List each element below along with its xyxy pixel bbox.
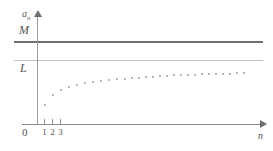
sequence-point [236,72,238,74]
y-axis-arrowhead-icon [34,10,42,17]
x-axis-tick-label-3: 3 [57,127,65,137]
sequence-convergence-figure: an M L 0 n 123 [0,0,273,151]
y-axis-label: an [22,9,31,22]
sequence-point [215,73,217,75]
sequence-point [159,75,161,77]
sequence-point [131,77,133,79]
y-axis-label-subscript: n [27,14,31,22]
upper-bound-line-m [14,41,263,43]
sequence-point [108,79,110,81]
sequence-point [222,73,224,75]
sequence-point [92,81,94,83]
sequence-point [124,78,126,80]
x-axis-tick-label-1: 1 [41,127,49,137]
sequence-point [173,74,175,76]
x-axis-label: n [258,131,263,141]
sequence-point [84,82,86,84]
sequence-point [138,77,140,79]
x-axis-tick-1 [44,119,45,125]
sequence-point [116,78,118,80]
sequence-point [208,73,210,75]
sequence-point [166,75,168,77]
sequence-point [68,86,70,88]
sequence-point [187,74,189,76]
x-axis-line [22,124,262,125]
sequence-point [201,73,203,75]
x-axis-arrowhead-icon [260,120,267,128]
sequence-point [243,72,245,74]
x-axis-tick-3 [60,119,61,125]
sequence-point [194,74,196,76]
sequence-point [100,80,102,82]
sequence-point [60,89,62,91]
y-axis-line [37,17,38,125]
sequence-point [152,76,154,78]
limit-line-l [14,60,263,61]
x-axis-tick-label-2: 2 [49,127,57,137]
sequence-point [76,84,78,86]
x-axis-tick-2 [52,119,53,125]
sequence-point [52,94,54,96]
sequence-point [44,104,46,106]
origin-label: 0 [22,127,28,138]
limit-label-l: L [20,62,27,74]
sequence-point [145,76,147,78]
sequence-point [180,74,182,76]
upper-bound-label-m: M [19,24,29,36]
sequence-point [229,73,231,75]
